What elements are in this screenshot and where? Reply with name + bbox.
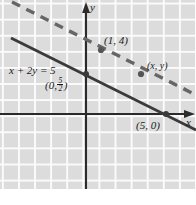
intercept-close-paren: ) <box>64 80 68 91</box>
point-label-5-0: (5, 0) <box>136 120 160 131</box>
graph-figure: y x x + 2y = 5 (1, 4) (x, y) (5, 0) (0, … <box>0 0 196 205</box>
fraction-numerator: 5 <box>57 77 63 85</box>
equation-text: x + 2y = 5 <box>9 64 56 76</box>
intercept-open-paren: (0, <box>45 80 57 91</box>
point-marker-xy <box>138 71 144 77</box>
point-marker-5-0 <box>163 111 169 117</box>
point-marker-1-4 <box>98 47 104 53</box>
point-label-y-intercept: (0, 5 2 ) <box>45 77 67 94</box>
point-label-xy: (x, y) <box>147 61 168 71</box>
axis-label-x: x <box>186 117 191 128</box>
axis-label-y: y <box>90 2 95 13</box>
graph-canvas <box>0 0 196 205</box>
fraction-denominator: 2 <box>57 85 63 93</box>
dashed-line <box>12 2 196 95</box>
intercept-fraction: 5 2 <box>57 77 63 94</box>
equation-annotation: x + 2y = 5 <box>9 65 56 76</box>
point-marker-0-5-2 <box>83 71 89 77</box>
y-axis <box>82 2 90 189</box>
point-label-1-4: (1, 4) <box>104 35 128 46</box>
